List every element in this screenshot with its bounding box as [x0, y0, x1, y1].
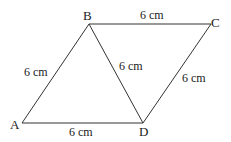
segment-BD [89, 24, 143, 123]
vertex-label-B: B [83, 8, 92, 23]
vertex-label-C: C [211, 15, 220, 30]
length-label-AB: 6 cm [24, 65, 48, 79]
rhombus-diagram: B C A D 6 cm 6 cm 6 cm 6 cm 6 cm [0, 0, 231, 142]
vertex-label-D: D [139, 124, 148, 139]
length-label-AD: 6 cm [69, 125, 93, 139]
vertex-label-A: A [10, 117, 20, 132]
length-label-CD: 6 cm [182, 71, 206, 85]
length-label-BD: 6 cm [119, 59, 143, 73]
length-label-BC: 6 cm [140, 8, 164, 22]
